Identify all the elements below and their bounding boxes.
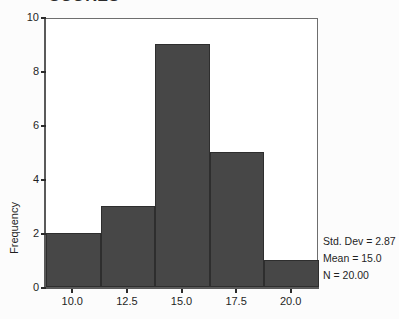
plot-frame bbox=[45, 18, 318, 288]
y-axis-tick-label: 6 bbox=[15, 119, 39, 131]
statistics-annotation: Std. Dev = 2.87 Mean = 15.0 N = 20.00 bbox=[323, 233, 396, 284]
x-axis-tick-label: 20.0 bbox=[269, 295, 313, 307]
x-axis-tick-label: 12.5 bbox=[105, 295, 149, 307]
chart-title: SCORES bbox=[49, 0, 120, 5]
y-axis-line bbox=[44, 18, 46, 289]
y-axis-tick-label: 4 bbox=[15, 173, 39, 185]
x-axis-tick bbox=[181, 289, 183, 293]
plot-area bbox=[46, 19, 317, 287]
histogram-bar bbox=[264, 260, 319, 287]
x-axis-tick bbox=[126, 289, 128, 293]
y-axis-tick-label: 2 bbox=[15, 227, 39, 239]
histogram-bar bbox=[101, 206, 156, 287]
x-axis-tick-label: 10.0 bbox=[50, 295, 94, 307]
y-axis-tick bbox=[41, 71, 46, 73]
y-axis-tick-label: 10 bbox=[15, 11, 39, 23]
histogram-bar bbox=[46, 233, 101, 287]
stat-n: N = 20.00 bbox=[323, 267, 396, 284]
stat-std-dev: Std. Dev = 2.87 bbox=[323, 233, 396, 250]
x-axis-tick bbox=[235, 289, 237, 293]
histogram-bar bbox=[210, 152, 265, 287]
x-axis-tick bbox=[290, 289, 292, 293]
y-axis-tick bbox=[41, 287, 46, 289]
y-axis-tick-label: 8 bbox=[15, 65, 39, 77]
x-axis-tick bbox=[71, 289, 73, 293]
y-axis-tick bbox=[41, 179, 46, 181]
y-axis-tick bbox=[41, 17, 46, 19]
x-axis-tick-label: 15.0 bbox=[160, 295, 204, 307]
y-axis-tick bbox=[41, 125, 46, 127]
histogram-bar bbox=[155, 44, 210, 287]
x-axis-tick-label: 17.5 bbox=[214, 295, 258, 307]
histogram-chart: SCORES Frequency Std. Dev = 2.87 Mean = … bbox=[0, 0, 399, 319]
y-axis-tick-label: 0 bbox=[15, 281, 39, 293]
stat-mean: Mean = 15.0 bbox=[323, 250, 396, 267]
y-axis-tick bbox=[41, 233, 46, 235]
